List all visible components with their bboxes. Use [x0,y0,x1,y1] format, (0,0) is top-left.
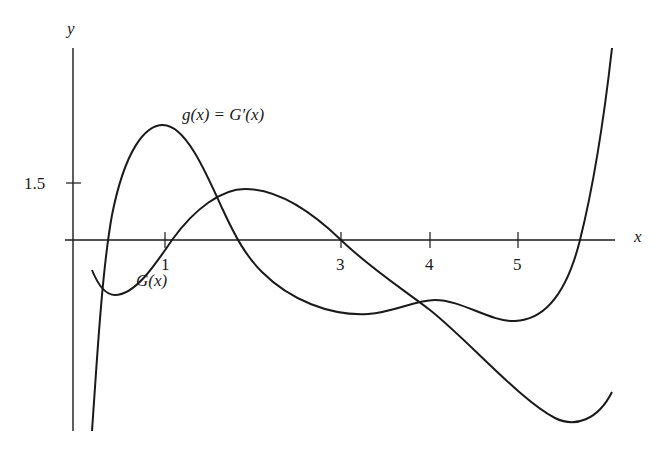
y-axis-label: y [67,20,75,37]
curve-label-g: g(x) = G′(x) [182,106,264,123]
x-tick-label-3: 3 [336,256,345,273]
x-tick-label-4: 4 [425,256,434,273]
x-axis-label: x [634,228,642,245]
x-tick-label-5: 5 [513,256,522,273]
curve-label-G: G(x) [136,272,167,289]
curve-G [92,189,612,422]
y-tick-label-1.5: 1.5 [24,175,45,192]
function-plot [0,0,653,455]
